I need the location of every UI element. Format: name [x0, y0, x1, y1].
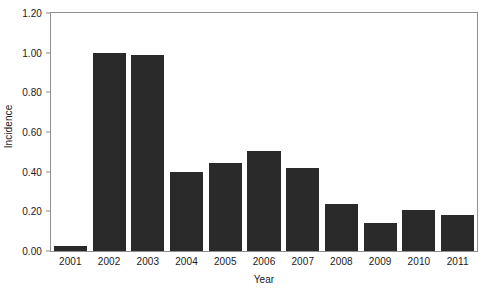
bar-slot: [209, 13, 242, 251]
x-axis-tick-label: 2007: [283, 256, 322, 267]
x-axis-title: Year: [50, 274, 478, 285]
bar-slot: [170, 13, 203, 251]
bar-slot: [402, 13, 435, 251]
y-axis-title-label: Incidence: [4, 104, 15, 148]
x-axis-tick-label: 2008: [322, 256, 361, 267]
y-axis-title: Incidence: [0, 0, 18, 252]
bar-chart: Incidence 0.000.200.400.600.801.001.20 2…: [0, 0, 501, 295]
bar: [131, 55, 164, 251]
bar-slot: [247, 13, 280, 251]
x-axis-tick-label: 2002: [90, 256, 129, 267]
y-axis-tick-label: 0.00: [22, 246, 42, 257]
x-axis-tick-label: 2011: [438, 256, 477, 267]
bar-slot: [54, 13, 87, 251]
x-axis-tick-label: 2006: [245, 256, 284, 267]
y-axis-tick-label: 0.20: [22, 206, 42, 217]
x-axis-tick-labels: 2001200220032004200520062007200820092010…: [51, 256, 477, 272]
y-axis-tick-label: 0.80: [22, 87, 42, 98]
y-axis-tick-label: 1.00: [22, 47, 42, 58]
bar: [325, 204, 358, 251]
x-axis-tick-label: 2005: [206, 256, 245, 267]
bars-layer: [51, 13, 477, 251]
bar: [54, 246, 87, 251]
bar-slot: [286, 13, 319, 251]
x-axis-tick-label: 2001: [51, 256, 90, 267]
x-axis-tick-label: 2010: [400, 256, 439, 267]
y-axis-tick-label: 0.60: [22, 127, 42, 138]
bar: [170, 172, 203, 251]
bar-slot: [93, 13, 126, 251]
bar: [402, 210, 435, 251]
bar: [209, 163, 242, 251]
y-axis-tick-label: 1.20: [22, 8, 42, 19]
bar: [364, 223, 397, 251]
bar-slot: [441, 13, 474, 251]
x-axis-tick-label: 2004: [167, 256, 206, 267]
y-axis-tick-label: 0.40: [22, 166, 42, 177]
bar-slot: [131, 13, 164, 251]
bar: [247, 151, 280, 251]
bar: [441, 215, 474, 251]
x-axis-tick-label: 2003: [128, 256, 167, 267]
y-axis-tick-labels: 0.000.200.400.600.801.001.20: [18, 0, 46, 295]
bar: [93, 53, 126, 251]
bar-slot: [364, 13, 397, 251]
bar-slot: [325, 13, 358, 251]
x-axis-tick-label: 2009: [361, 256, 400, 267]
bar: [286, 168, 319, 251]
